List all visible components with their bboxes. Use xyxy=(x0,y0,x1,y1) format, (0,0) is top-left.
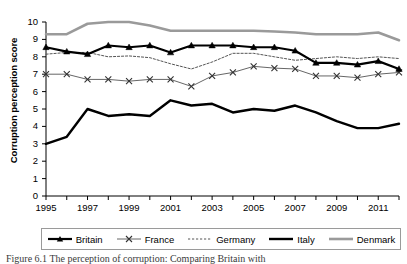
x-tick-label: 2003 xyxy=(196,202,228,213)
legend-swatch-britain-icon xyxy=(47,233,73,245)
legend-label: Denmark xyxy=(357,234,396,245)
series-britain xyxy=(43,42,402,71)
y-tick-label: 8 xyxy=(24,51,38,62)
legend-swatch-italy-icon xyxy=(268,233,294,245)
y-tick-label: 9 xyxy=(24,33,38,44)
data-point-marker xyxy=(188,83,194,89)
legend-swatch-france-icon xyxy=(116,233,142,245)
series-denmark xyxy=(46,22,399,40)
legend-item-germany[interactable]: Germany xyxy=(187,233,255,245)
series-germany xyxy=(46,52,399,69)
x-tick-label: 1999 xyxy=(113,202,145,213)
x-tick-label: 1995 xyxy=(30,202,62,213)
legend-item-denmark[interactable]: Denmark xyxy=(328,233,396,245)
legend-label: France xyxy=(145,234,175,245)
x-tick-label: 2011 xyxy=(362,202,394,213)
legend-item-italy[interactable]: Italy xyxy=(268,233,314,245)
legend-item-britain[interactable]: Britain xyxy=(47,233,103,245)
y-tick-label: 6 xyxy=(24,86,38,97)
y-tick-label: 2 xyxy=(24,155,38,166)
x-tick-label: 1997 xyxy=(72,202,104,213)
legend-label: Germany xyxy=(216,234,255,245)
legend-swatch-denmark-icon xyxy=(328,233,354,245)
data-series-group xyxy=(43,22,402,144)
x-tick-label: 2001 xyxy=(155,202,187,213)
legend-swatch-germany-icon xyxy=(187,233,213,245)
y-tick-label: 5 xyxy=(24,103,38,114)
x-tick-label: 2009 xyxy=(321,202,353,213)
series-france xyxy=(43,63,402,89)
y-tick-label: 1 xyxy=(24,173,38,184)
y-tick-label: 7 xyxy=(24,68,38,79)
x-tick-marks xyxy=(46,196,399,200)
chart-legend: BritainFranceGermanyItalyDenmark xyxy=(41,228,401,250)
legend-label: Italy xyxy=(297,234,314,245)
x-tick-label: 2005 xyxy=(238,202,270,213)
series-italy xyxy=(46,100,399,144)
y-tick-label: 3 xyxy=(24,138,38,149)
figure-caption: Figure 6.1 The perception of corruption:… xyxy=(6,253,406,264)
y-tick-label: 0 xyxy=(24,190,38,201)
y-tick-label: 4 xyxy=(24,120,38,131)
x-tick-label: 2007 xyxy=(279,202,311,213)
y-tick-label: 10 xyxy=(24,16,38,27)
legend-label: Britain xyxy=(76,234,103,245)
legend-item-france[interactable]: France xyxy=(116,233,175,245)
